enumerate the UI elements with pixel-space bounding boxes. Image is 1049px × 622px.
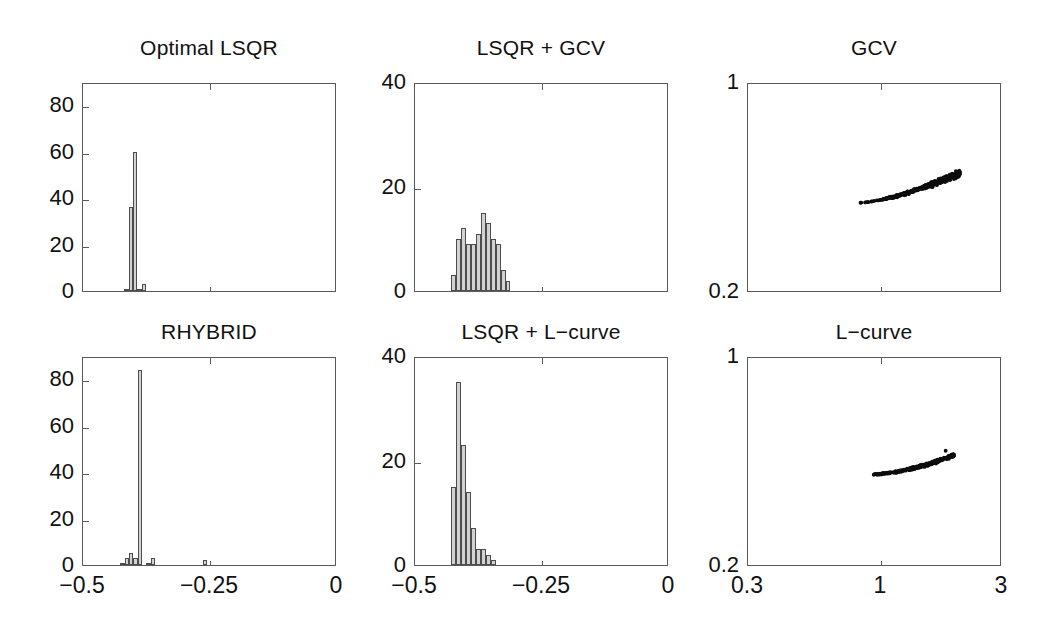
x-axis-tick: [881, 287, 882, 292]
scatter-point: [956, 170, 960, 174]
y-axis-tick-label: 20: [334, 450, 406, 472]
axes-lsqr-gcv: [414, 83, 668, 292]
x-axis-tick: [210, 561, 211, 566]
y-axis-tick: [83, 428, 89, 429]
scatter-point: [882, 197, 886, 201]
y-axis-tick: [83, 200, 89, 201]
scatter-points-group: [748, 358, 1001, 566]
scatter-point: [914, 465, 918, 469]
y-axis-tick-label: 0.2: [667, 554, 739, 576]
axes-gcv: [747, 83, 1001, 292]
x-axis-tick-label: 1: [810, 574, 950, 597]
y-axis-tick-label: 60: [2, 141, 74, 163]
plot-area-rhybrid: [83, 358, 335, 565]
scatter-point: [918, 464, 922, 468]
histogram-bar: [491, 560, 496, 565]
x-axis-tick: [542, 358, 543, 364]
scatter-point: [874, 472, 878, 476]
x-axis-tick: [210, 287, 211, 292]
panel-lcurve: L−curve: [747, 320, 1001, 576]
panel-lsqr-gcv: LSQR + GCV: [414, 36, 668, 292]
scatter-point: [951, 172, 955, 176]
y-axis-tick-label: 60: [2, 415, 74, 437]
panel-title-lsqr-gcv: LSQR + GCV: [414, 36, 668, 60]
scatter-point: [899, 470, 903, 474]
y-axis-tick: [83, 107, 89, 108]
y-axis-tick-label: 0.2: [667, 280, 739, 302]
y-axis-tick-label: 20: [334, 176, 406, 198]
figure-canvas: Optimal LSQR 020406080 LSQR + GCV 02040 …: [0, 0, 1049, 622]
y-axis-tick: [415, 463, 421, 464]
y-axis-tick-label: 20: [2, 508, 74, 530]
y-axis-tick-label: 40: [2, 187, 74, 209]
scatter-point: [947, 455, 951, 459]
scatter-point: [904, 193, 908, 197]
y-axis-tick-label: 40: [2, 461, 74, 483]
panel-title-gcv: GCV: [747, 36, 1001, 60]
x-axis-tick: [542, 287, 543, 292]
scatter-point: [891, 471, 895, 475]
x-axis-tick: [210, 84, 211, 90]
panel-title-lsqr-lcurve: LSQR + L−curve: [414, 320, 668, 344]
y-axis-tick-label: 80: [2, 368, 74, 390]
histogram-bar: [506, 281, 511, 291]
x-axis-tick-label: 3: [931, 574, 1049, 597]
y-axis-tick-label: 40: [334, 71, 406, 93]
scatter-point: [863, 201, 867, 205]
scatter-point: [878, 198, 882, 202]
panel-optimal-lsqr: Optimal LSQR: [82, 36, 336, 292]
x-axis-tick-label: −0.5: [344, 574, 484, 597]
plot-area-lsqr-lcurve: [415, 358, 667, 565]
x-axis-tick-label: −0.5: [12, 574, 152, 597]
axes-optimal-lsqr: [82, 83, 336, 292]
scatter-point: [937, 458, 941, 462]
axes-lsqr-lcurve: [414, 357, 668, 566]
y-axis-tick: [83, 521, 89, 522]
x-axis-tick: [881, 84, 882, 90]
panel-rhybrid: RHYBRID: [82, 320, 336, 576]
y-axis-tick: [83, 381, 89, 382]
x-axis-tick: [881, 358, 882, 364]
y-axis-tick-label: 40: [334, 345, 406, 367]
y-axis-tick: [83, 474, 89, 475]
axes-rhybrid: [82, 357, 336, 566]
histogram-bar: [133, 152, 137, 291]
scatter-point: [950, 454, 954, 458]
scatter-point: [859, 201, 863, 205]
scatter-point: [933, 460, 937, 464]
panel-gcv: GCV: [747, 36, 1001, 292]
scatter-point: [922, 187, 926, 191]
y-axis-tick-label: 1: [667, 71, 739, 93]
scatter-point: [941, 458, 945, 462]
histogram-bar: [203, 560, 207, 565]
y-axis-tick-label: 0: [2, 280, 74, 302]
scatter-point: [943, 180, 947, 184]
scatter-point: [944, 176, 948, 180]
panel-title-lcurve: L−curve: [747, 320, 1001, 344]
x-axis-tick: [881, 561, 882, 566]
scatter-point: [909, 467, 913, 471]
y-axis-tick-label: 0: [334, 280, 406, 302]
x-axis-tick: [210, 358, 211, 364]
scatter-point: [895, 194, 899, 198]
plot-area-optimal-lsqr: [83, 84, 335, 291]
x-axis-tick: [542, 84, 543, 90]
scatter-point-outlier: [944, 449, 948, 453]
plot-area-lcurve: [748, 358, 1000, 565]
panel-title-optimal-lsqr: Optimal LSQR: [82, 36, 336, 60]
axes-lcurve: [747, 357, 1001, 566]
y-axis-tick: [83, 247, 89, 248]
scatter-point: [923, 464, 927, 468]
scatter-point: [907, 192, 911, 196]
scatter-points-group: [748, 84, 1001, 292]
plot-area-gcv: [748, 84, 1000, 291]
x-axis-tick-label: −0.25: [471, 574, 611, 597]
y-axis-tick-label: 1: [667, 345, 739, 367]
x-axis-tick-label: −0.25: [139, 574, 279, 597]
scatter-point: [880, 472, 884, 476]
histogram-bar: [138, 370, 142, 565]
histogram-bar: [151, 558, 155, 565]
y-axis-tick: [415, 189, 421, 190]
scatter-point: [935, 183, 939, 187]
panel-lsqr-lcurve: LSQR + L−curve: [414, 320, 668, 576]
